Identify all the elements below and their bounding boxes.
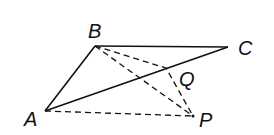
label-a: A <box>23 108 37 130</box>
label-c: C <box>238 37 253 59</box>
segment-ac <box>45 47 228 111</box>
label-b: B <box>88 20 101 42</box>
label-p: P <box>199 109 213 131</box>
segment-bc <box>95 46 228 47</box>
segment-ab <box>45 46 95 111</box>
geometry-diagram: A B C P Q <box>0 0 274 135</box>
label-q: Q <box>179 68 195 90</box>
segment-ap <box>45 111 193 116</box>
point-p-marker <box>192 115 195 118</box>
